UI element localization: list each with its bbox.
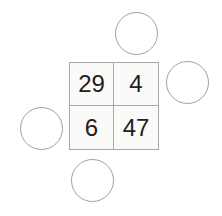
grid-cell-bottom-right: 47 [114,106,158,149]
circle-left[interactable] [20,107,63,150]
circle-right[interactable] [166,61,209,104]
grid-cell-top-left: 29 [70,63,114,106]
circle-top[interactable] [115,12,158,55]
number-grid: 29 4 6 47 [69,62,159,150]
grid-cell-top-right: 4 [114,63,158,106]
circle-bottom[interactable] [71,159,114,202]
grid-cell-bottom-left: 6 [70,106,114,149]
